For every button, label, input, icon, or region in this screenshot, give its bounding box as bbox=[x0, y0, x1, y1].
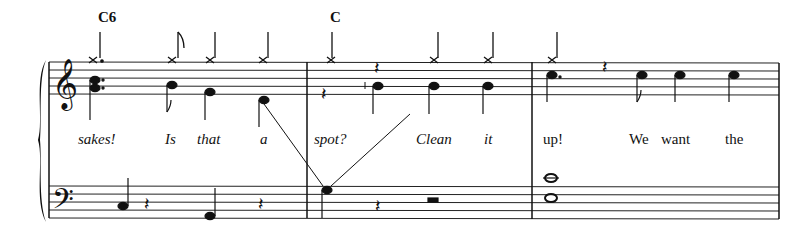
chord-symbol: C bbox=[330, 9, 341, 25]
lyric-word: up! bbox=[543, 131, 563, 147]
svg-text:𝄽: 𝄽 bbox=[321, 83, 327, 104]
lyric-word: We bbox=[629, 131, 649, 147]
lyric-word: Is bbox=[164, 131, 176, 147]
svg-text:𝄽: 𝄽 bbox=[374, 57, 380, 78]
bass-staff bbox=[49, 186, 779, 219]
lyric-word: a bbox=[260, 131, 268, 147]
lyric-word: the bbox=[725, 131, 744, 147]
bass-notes bbox=[118, 174, 559, 220]
lyric-word: Clean bbox=[416, 131, 452, 147]
svg-text:𝄽: 𝄽 bbox=[602, 56, 608, 77]
chord-symbol: C6 bbox=[98, 9, 117, 25]
brace-icon bbox=[38, 60, 46, 222]
lyric-word: that bbox=[197, 131, 221, 147]
lyric-word: want bbox=[661, 131, 691, 147]
svg-text:𝄽: 𝄽 bbox=[144, 193, 150, 214]
svg-text:𝄽: 𝄽 bbox=[375, 195, 381, 216]
lyric-word: it bbox=[484, 131, 493, 147]
lyric-word: spot? bbox=[314, 131, 347, 147]
treble-staff bbox=[49, 62, 779, 95]
bass-clef-icon: 𝄢 bbox=[52, 182, 74, 222]
lyric-word: sakes! bbox=[78, 131, 116, 147]
svg-text:𝄽: 𝄽 bbox=[258, 193, 264, 214]
treble-clef-icon: 𝄞 bbox=[52, 57, 78, 111]
music-score: 𝄞 𝄢 C6C sakes!Isthataspot?Cleanitup!Wewa… bbox=[0, 0, 812, 233]
treble-notes bbox=[90, 71, 739, 127]
rhythm-slashes bbox=[89, 32, 557, 63]
bass-rests: 𝄽 𝄽 𝄽 bbox=[144, 193, 381, 216]
